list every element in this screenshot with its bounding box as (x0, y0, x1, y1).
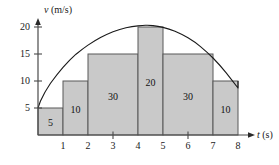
bar-area-label-7-8: 10 (215, 105, 236, 115)
x-tick-label-5: 5 (157, 141, 169, 151)
y-tick-label-10: 10 (12, 76, 30, 86)
x-axis-title-variable: t (257, 129, 260, 140)
velocity-time-figure: v (m/s) t (s) 20 15 10 5 1 2 3 4 5 6 7 8… (0, 0, 279, 165)
y-tick-label-5: 5 (12, 103, 30, 113)
bar-area-label-1-2: 10 (65, 105, 86, 115)
bar-area-label-4-5: 20 (140, 78, 161, 88)
y-axis-title: v (m/s) (44, 5, 72, 15)
x-axis-title-unit: (s) (262, 129, 273, 140)
x-tick-label-2: 2 (82, 141, 94, 151)
bar-area-label-0-1: 5 (42, 118, 59, 128)
x-tick-label-4: 4 (132, 141, 144, 151)
y-axis-arrow-icon (35, 18, 41, 25)
y-tick-label-15: 15 (12, 49, 30, 59)
bars-group (38, 27, 238, 135)
x-tick-label-7: 7 (207, 141, 219, 151)
bar-area-label-2-4: 30 (102, 92, 124, 102)
x-axis-arrow-icon (248, 132, 255, 138)
x-tick-label-6: 6 (182, 141, 194, 151)
bar-area-label-5-7: 30 (177, 92, 199, 102)
x-axis-title: t (s) (257, 130, 273, 140)
x-tick-label-3: 3 (107, 141, 119, 151)
y-axis-title-unit: (m/s) (51, 4, 72, 15)
x-tick-label-8: 8 (232, 141, 244, 151)
y-axis-title-variable: v (44, 4, 48, 15)
y-tick-label-20: 20 (12, 22, 30, 32)
x-tick-label-1: 1 (57, 141, 69, 151)
